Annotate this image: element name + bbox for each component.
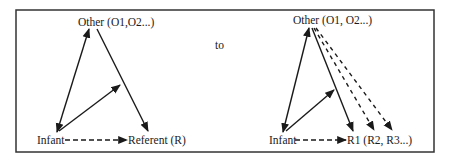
other-r3-dashed-arrow [316, 28, 392, 130]
infant-joint-attention-arrow [59, 85, 120, 131]
to-label: to [215, 39, 224, 51]
right-other-label: Other (O1, O2...) [293, 14, 372, 27]
other-r2-dashed-arrow [314, 28, 374, 130]
right-infant-label: Infant [269, 134, 297, 146]
left-referent-label: Referent (R) [128, 134, 186, 147]
left-infant-label: Infant [37, 134, 65, 146]
diagram-frame [16, 10, 434, 152]
infant-other-arrow [283, 28, 309, 132]
left-other-label: Other (O1,O2...) [78, 16, 154, 29]
right-triangle: Other (O1, O2...) Infant R1 (R2, R3...) [269, 14, 412, 147]
other-r1-arrow [312, 28, 353, 131]
other-referent-arrow [97, 29, 148, 131]
infant-joint-attention-arrow [286, 90, 334, 131]
infant-other-arrow [57, 29, 89, 132]
right-referent-label: R1 (R2, R3...) [347, 134, 412, 147]
triadic-attention-diagram: Other (O1,O2...) Infant Referent (R) to … [0, 0, 449, 160]
left-triangle: Other (O1,O2...) Infant Referent (R) [37, 16, 186, 147]
